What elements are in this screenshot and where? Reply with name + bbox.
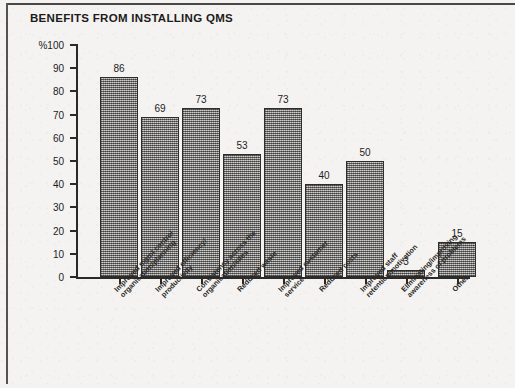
y-axis-label-60: 60 — [26, 132, 64, 143]
y-axis-tick-50 — [70, 160, 78, 162]
bar-value-label: 69 — [141, 103, 179, 114]
y-axis-label-80: 80 — [26, 86, 64, 97]
bar-value-label: 73 — [264, 94, 302, 105]
y-axis-tick-30 — [70, 206, 78, 208]
y-axis-tick-70 — [70, 114, 78, 116]
y-axis-label-30: 30 — [26, 202, 64, 213]
y-axis-tick-60 — [70, 137, 78, 139]
bar-value-label: 53 — [223, 140, 261, 151]
y-axis-label-90: 90 — [26, 63, 64, 74]
y-axis-label-100: %100 — [26, 40, 64, 51]
y-axis-tick-100 — [70, 44, 78, 46]
y-axis-label-20: 20 — [26, 225, 64, 236]
y-axis-line — [76, 45, 78, 279]
bar-value-label: 73 — [182, 94, 220, 105]
bar-value-label: 50 — [346, 147, 384, 158]
y-axis-tick-80 — [70, 90, 78, 92]
y-axis-label-50: 50 — [26, 156, 64, 167]
y-axis-tick-10 — [70, 253, 78, 255]
y-axis-tick-20 — [70, 230, 78, 232]
y-axis-label-70: 70 — [26, 109, 64, 120]
bar-value-label: 86 — [100, 63, 138, 74]
y-axis-tick-90 — [70, 67, 78, 69]
y-axis-tick-0 — [70, 276, 78, 278]
bar-value-label: 40 — [305, 170, 343, 181]
bar-chart-plot-area: 0102030405060708090%100 8669735373405031… — [0, 0, 515, 388]
bar — [100, 77, 138, 277]
y-axis-label-40: 40 — [26, 179, 64, 190]
y-axis-tick-40 — [70, 183, 78, 185]
y-axis-label-0: 0 — [26, 272, 64, 283]
chart-page: BENEFITS FROM INSTALLING QMS 01020304050… — [0, 0, 515, 388]
y-axis-label-10: 10 — [26, 248, 64, 259]
